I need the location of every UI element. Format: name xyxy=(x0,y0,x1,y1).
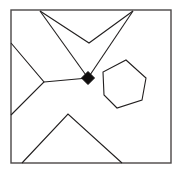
diagram-svg xyxy=(0,0,181,173)
diagram-canvas xyxy=(0,0,181,173)
bounding-square-frame xyxy=(11,10,171,163)
